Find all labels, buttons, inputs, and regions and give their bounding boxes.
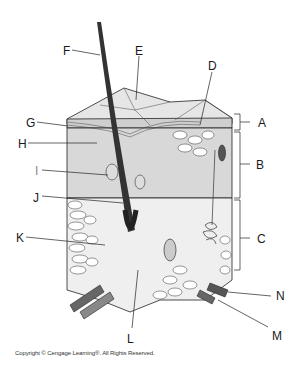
label-a: A [258,117,266,129]
label-m: M [272,330,282,342]
label-f: F [63,45,70,57]
label-k: K [16,232,24,244]
nerve-ending [219,145,226,161]
layer-brackets [234,114,250,270]
skin-cross-section-diagram [0,0,298,365]
label-b: B [256,159,264,171]
label-e: E [135,45,143,57]
copyright-notice: Copyright © Cengage Learning®. All Right… [15,350,155,356]
label-d: D [208,60,217,72]
label-h: H [18,138,27,150]
label-c: C [257,233,266,245]
label-n: N [276,290,285,302]
label-i: I [35,165,38,177]
label-l: L [127,333,134,345]
pacinian-corpuscle [164,239,176,261]
label-g: G [26,117,35,129]
label-j: J [33,192,39,204]
